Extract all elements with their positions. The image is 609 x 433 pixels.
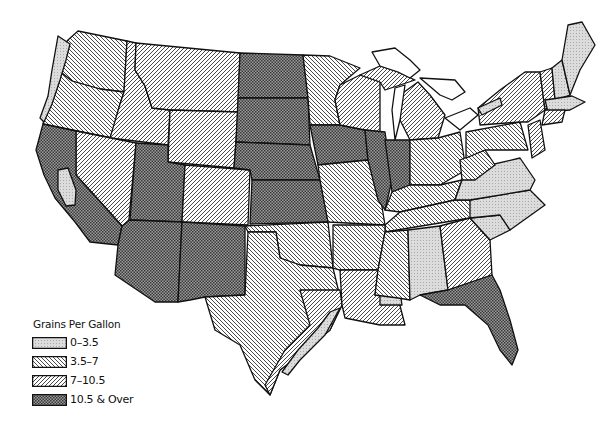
state-connecticut: [542, 110, 565, 125]
state-new-mexico: [178, 222, 245, 302]
state-wisconsin: [335, 75, 380, 132]
state-south-dakota: [236, 98, 310, 145]
legend-item-very-hard: 10.5 & Over: [32, 390, 133, 409]
state-kansas: [250, 180, 328, 224]
swatch-3-5-7: [32, 356, 67, 368]
state-montana: [135, 43, 240, 112]
state-iowa: [310, 125, 368, 165]
state-pennsylvania: [466, 122, 528, 158]
legend-title: Grains Per Gallon: [33, 318, 133, 330]
state-north-dakota: [238, 53, 308, 98]
legend-item-moderate: 3.5–7: [32, 352, 133, 371]
state-colorado: [182, 165, 250, 225]
state-arizona: [115, 220, 182, 302]
legend-item-soft: 0–3.5: [32, 333, 133, 352]
swatch-0-3-5: [32, 337, 67, 349]
legend-item-hard: 7–10.5: [32, 371, 133, 390]
state-arkansas: [333, 225, 385, 270]
state-wyoming: [168, 110, 238, 168]
swatch-10-5-over: [32, 394, 67, 406]
legend: Grains Per Gallon 0–3.5 3.5–7 7–10.5 10.…: [32, 318, 133, 409]
state-new-jersey: [528, 120, 545, 158]
state-ohio: [410, 132, 466, 185]
state-new-york: [478, 72, 545, 125]
state-maine: [562, 22, 595, 95]
swatch-7-10-5: [32, 375, 67, 387]
